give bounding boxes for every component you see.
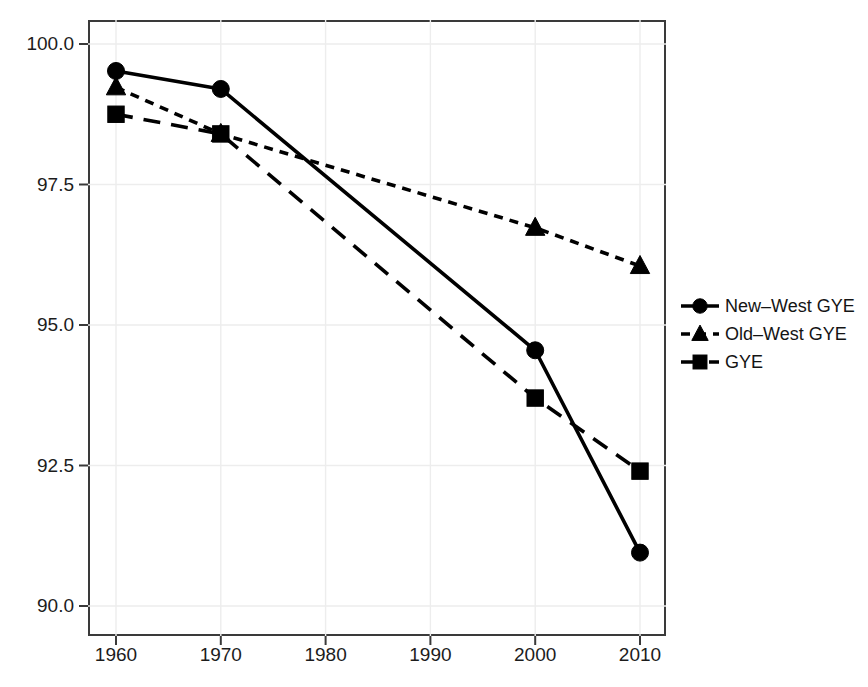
legend-item-label: GYE bbox=[725, 352, 763, 373]
y-axis-tick-label: 92.5 bbox=[8, 455, 74, 477]
series-lines bbox=[116, 71, 640, 553]
legend-item: Old–West GYE bbox=[679, 320, 859, 348]
square-marker bbox=[213, 126, 229, 142]
x-axis-tick-label: 1960 bbox=[81, 644, 151, 666]
square-marker bbox=[632, 463, 648, 479]
circle-marker bbox=[693, 299, 707, 313]
circle-marker bbox=[212, 80, 229, 97]
gridlines bbox=[88, 20, 666, 636]
x-axis-tick-label: 1990 bbox=[395, 644, 465, 666]
x-axis-tick-label: 1980 bbox=[291, 644, 361, 666]
triangle-marker bbox=[106, 77, 125, 95]
square-marker bbox=[693, 355, 707, 369]
x-axis-tick-label: 2010 bbox=[605, 644, 675, 666]
series-markers bbox=[106, 62, 649, 561]
circle-marker bbox=[632, 544, 649, 561]
legend-item: GYE bbox=[679, 348, 859, 376]
legend-item: New–West GYE bbox=[679, 292, 859, 320]
y-axis-tick-label: 97.5 bbox=[8, 174, 74, 196]
circle-marker bbox=[527, 342, 544, 359]
square-marker bbox=[108, 106, 124, 122]
axis-ticks bbox=[79, 44, 640, 645]
x-axis-tick-label: 2000 bbox=[500, 644, 570, 666]
chart-figure: 100.097.595.092.590.0 196019701980199020… bbox=[0, 0, 868, 687]
legend-key-triangle bbox=[679, 320, 721, 348]
legend-key-square bbox=[679, 348, 721, 376]
y-axis-tick-label: 90.0 bbox=[8, 595, 74, 617]
legend-key-circle bbox=[679, 292, 721, 320]
y-axis-tick-label: 100.0 bbox=[8, 33, 74, 55]
chart-legend: New–West GYEOld–West GYEGYE bbox=[679, 292, 859, 376]
legend-item-label: Old–West GYE bbox=[725, 324, 847, 345]
y-axis-tick-label: 95.0 bbox=[8, 314, 74, 336]
square-marker bbox=[527, 390, 543, 406]
x-axis-tick-label: 1970 bbox=[186, 644, 256, 666]
legend-item-label: New–West GYE bbox=[725, 296, 855, 317]
